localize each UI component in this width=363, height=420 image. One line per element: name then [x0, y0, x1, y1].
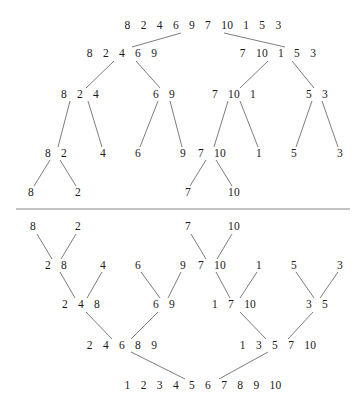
merge-node: 7	[185, 221, 191, 233]
merge-node: 6	[135, 260, 141, 272]
split-node: 7 10	[198, 148, 226, 160]
split-edge	[34, 160, 50, 186]
merge-edge	[86, 312, 112, 339]
merge-node: 6 9	[153, 299, 175, 311]
split-edge	[132, 33, 181, 47]
split-node: 2	[75, 187, 81, 199]
merge-node: 7 10	[198, 260, 226, 272]
split-node: 7 10 1 5 3	[240, 48, 316, 60]
merge-edge	[131, 312, 158, 339]
edge-layer	[34, 33, 338, 379]
merge-sort-diagram: 8 2 4 6 9 7 10 1 5 38 2 4 6 97 10 1 5 38…	[0, 0, 363, 420]
merge-node: 2 8	[45, 260, 67, 272]
merge-node: 9	[180, 260, 186, 272]
merge-node: 1 2 3 4 5 6 7 8 9 10	[125, 380, 282, 392]
merge-edge	[296, 272, 314, 298]
tree-edges	[0, 0, 363, 420]
merge-node: 3	[337, 260, 343, 272]
split-node: 10	[228, 187, 240, 199]
split-edge	[136, 61, 160, 88]
merge-edge	[240, 312, 266, 339]
merge-node: 1	[256, 260, 262, 272]
merge-edge	[216, 272, 230, 298]
merge-node: 1 3 5 7 10	[240, 340, 316, 352]
merge-edge	[61, 234, 76, 259]
merge-node: 4	[100, 260, 106, 272]
split-node: 1	[256, 148, 262, 160]
merge-edge	[217, 234, 232, 259]
merge-node: 2	[75, 221, 81, 233]
merge-edge	[87, 272, 102, 298]
merge-edge	[37, 234, 52, 259]
split-edge	[140, 101, 158, 147]
split-edge	[224, 33, 285, 47]
split-edge	[292, 61, 314, 88]
merge-node: 1 7 10	[212, 299, 256, 311]
split-node: 8	[28, 187, 34, 199]
merge-edge	[131, 352, 185, 379]
split-node: 4	[100, 148, 106, 160]
merge-edge	[141, 272, 160, 298]
merge-edge	[288, 312, 313, 339]
split-node: 8 2	[45, 148, 67, 160]
split-node: 8 2 4 6 9	[87, 48, 157, 60]
split-edge	[86, 61, 114, 88]
merge-edge	[219, 352, 268, 379]
split-edge	[170, 101, 182, 147]
split-node: 9	[180, 148, 186, 160]
split-edge	[240, 101, 258, 147]
merge-node: 2 4 8	[62, 299, 100, 311]
split-edge	[322, 101, 338, 147]
split-edge	[214, 101, 228, 147]
merge-node: 5	[291, 260, 297, 272]
split-edge	[88, 101, 102, 147]
split-edge	[216, 160, 232, 186]
split-node: 5	[291, 148, 297, 160]
merge-edge	[320, 272, 338, 298]
split-node: 6	[135, 148, 141, 160]
split-edge	[60, 160, 76, 186]
split-node: 8 2 4	[61, 89, 99, 101]
merge-node: 3 5	[306, 299, 328, 311]
split-edge	[190, 160, 206, 186]
merge-edge	[60, 272, 75, 298]
split-node: 8 2 4 6 9 7 10 1 5 3	[125, 20, 282, 32]
merge-edge	[191, 234, 206, 259]
split-edge	[58, 101, 70, 147]
split-edge	[240, 61, 268, 88]
merge-node: 10	[228, 221, 240, 233]
split-node: 7	[185, 187, 191, 199]
split-node: 3	[337, 148, 343, 160]
split-edge	[296, 101, 312, 147]
merge-edge	[240, 272, 257, 298]
merge-edge	[168, 272, 181, 298]
split-node: 7 10 1	[212, 89, 256, 101]
merge-node: 8	[30, 221, 36, 233]
split-node: 5 3	[306, 89, 328, 101]
merge-node: 2 4 6 8 9	[87, 340, 157, 352]
split-node: 6 9	[153, 89, 175, 101]
